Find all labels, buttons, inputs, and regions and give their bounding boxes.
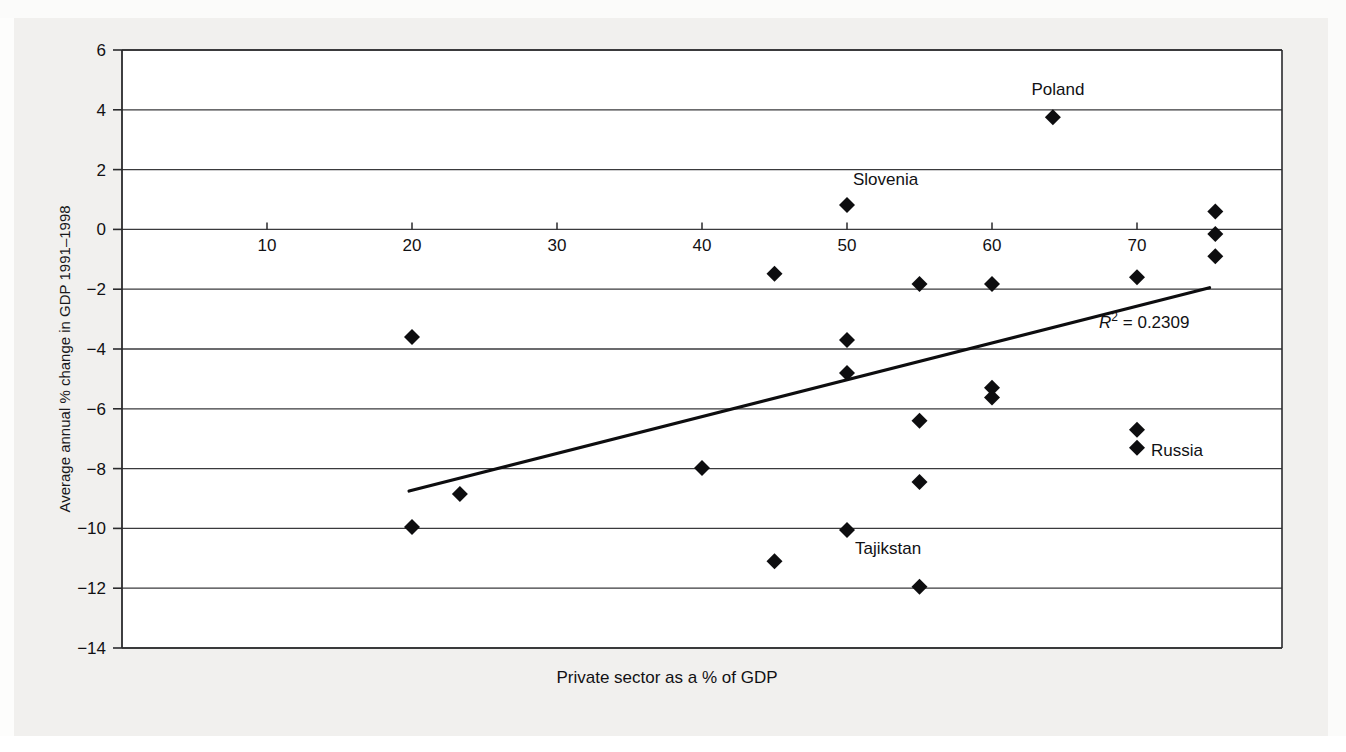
chart-page: 6420−2−4−6−8−10−12−14 10203040506070 Pol… [0,0,1346,752]
data-point-label: Tajikstan [855,539,921,558]
x-tick-label: 20 [403,236,422,255]
x-tick-label: 30 [548,236,567,255]
x-tick-label: 60 [983,236,1002,255]
x-tick-label: 40 [693,236,712,255]
y-tick-label: −14 [77,639,106,658]
y-axis [113,50,122,648]
y-tick-labels: 6420−2−4−6−8−10−12−14 [77,41,106,658]
y-axis-title: Average annual % change in GDP 1991–1998 [56,205,73,512]
y-tick-label: −8 [87,460,106,479]
x-tick-label: 50 [838,236,857,255]
x-tick-label: 10 [258,236,277,255]
y-tick-label: −2 [87,280,106,299]
y-tick-label: −12 [77,579,106,598]
y-tick-label: 0 [97,220,106,239]
y-tick-label: 6 [97,41,106,60]
data-point-label: Russia [1151,441,1204,460]
x-tick-label: 70 [1128,236,1147,255]
y-tick-label: 2 [97,161,106,180]
scatter-chart: 6420−2−4−6−8−10−12−14 10203040506070 Pol… [0,0,1346,752]
y-tick-label: 4 [97,101,106,120]
data-point-label: Poland [1031,80,1084,99]
x-axis-title: Private sector as a % of GDP [556,668,777,687]
y-tick-label: −4 [87,340,106,359]
data-point-label: Slovenia [853,170,919,189]
y-tick-label: −6 [87,400,106,419]
y-tick-label: −10 [77,519,106,538]
